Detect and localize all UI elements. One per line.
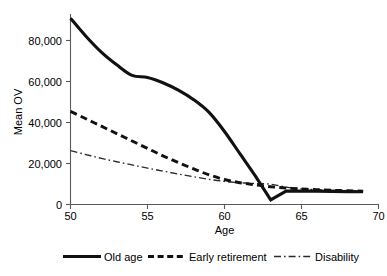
series-line-old-age [71,18,364,200]
legend-label-old-age: Old age [104,251,143,263]
y-tick-label-20000: 20,000 [28,158,62,170]
x-tick-label-60: 60 [218,210,230,222]
y-tick-label-0: 0 [56,199,62,211]
legend-label-disability: Disability [315,251,360,263]
line-chart: 80,000 60,000 40,000 20,000 0 50 55 60 6… [0,0,387,276]
y-tick-label-40000: 40,000 [28,117,62,129]
x-axis-ticks [71,205,379,210]
chart-legend: Old age Early retirement Disability [63,251,360,263]
x-tick-label-50: 50 [64,210,76,222]
series-line-disability [71,151,364,192]
y-tick-label-80000: 80,000 [28,35,62,47]
y-axis-ticks [66,41,71,205]
y-axis-tick-labels: 80,000 60,000 40,000 20,000 0 [28,35,62,211]
chart-figure: 80,000 60,000 40,000 20,000 0 50 55 60 6… [0,0,387,276]
legend-label-early-retirement: Early retirement [189,251,267,263]
x-tick-label-55: 55 [141,210,153,222]
x-axis-tick-labels: 50 55 60 65 70 [64,210,384,222]
y-axis-title: Mean OV [12,88,24,135]
x-tick-label-65: 65 [295,210,307,222]
x-axis-title: Age [215,224,235,236]
x-tick-label-70: 70 [372,210,384,222]
y-tick-label-60000: 60,000 [28,76,62,88]
